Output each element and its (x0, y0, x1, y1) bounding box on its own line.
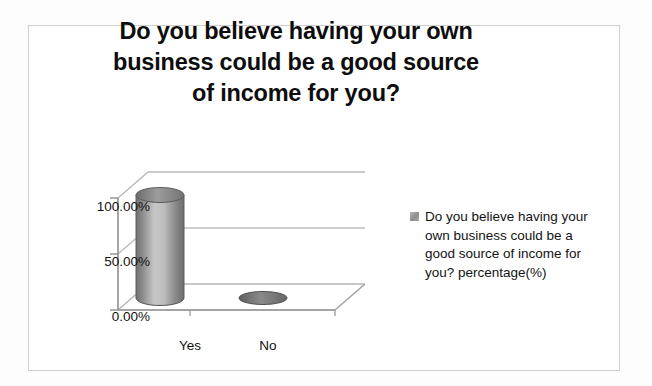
legend-entry-label: Do you believe having your own business … (425, 208, 600, 282)
x-tick-label-no: No (238, 338, 298, 353)
legend-color-swatch-icon (410, 212, 419, 221)
chart-title: Do you believe having your own business … (40, 16, 552, 109)
y-tick-label-100: 100.00% (72, 200, 150, 214)
y-axis-labels: 100.00% 50.00% 0.00% (60, 150, 150, 345)
floor-right-edge (335, 284, 365, 310)
y-tick-label-50: 50.00% (72, 255, 150, 269)
legend-entry[interactable]: Do you believe having your own business … (410, 208, 600, 282)
bar-no-base-ellipse (239, 292, 287, 305)
plot-area: 100.00% 50.00% 0.00% Yes No (60, 150, 390, 345)
chart-screenshot: Do you believe having your own business … (0, 0, 652, 386)
x-axis-ticks (190, 310, 335, 316)
chart-title-line-1: Do you believe having your own (40, 16, 552, 47)
x-tick-label-yes: Yes (160, 338, 220, 353)
chart-legend: Do you believe having your own business … (410, 208, 600, 282)
chart-title-line-3: of income for you? (40, 78, 552, 109)
y-tick-label-0: 0.00% (72, 310, 150, 324)
chart-title-line-2: business could be a good source (40, 47, 552, 78)
bar-no[interactable] (239, 292, 287, 305)
